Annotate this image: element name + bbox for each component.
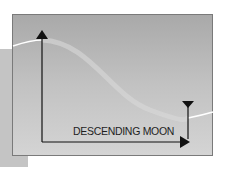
diagram-label: DESCENDING MOON <box>73 125 174 137</box>
arrow-up-icon <box>36 30 48 39</box>
curve-left-segment <box>13 40 42 46</box>
curve-band <box>42 40 188 120</box>
curve-right-segment <box>188 112 213 118</box>
triangle-down-icon <box>182 101 194 108</box>
descending-moon-diagram <box>0 0 227 173</box>
